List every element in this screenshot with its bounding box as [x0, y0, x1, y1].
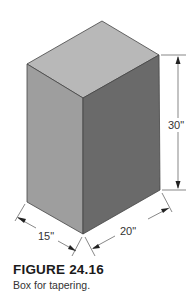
width-label: 20"	[120, 225, 136, 237]
box-diagram: 30" 15" 20"	[0, 0, 194, 302]
figure-title: FIGURE 24.16	[13, 262, 104, 277]
arrowhead-left-icon	[17, 217, 26, 223]
depth-label: 15"	[38, 230, 54, 242]
height-label: 30"	[168, 119, 184, 131]
arrowhead-right-icon	[161, 208, 169, 213]
arrowhead-down-icon	[176, 181, 181, 189]
figure-caption: Box for tapering.	[13, 279, 90, 291]
arrowhead-up-icon	[176, 56, 181, 64]
arrowhead-right-icon	[68, 245, 76, 251]
